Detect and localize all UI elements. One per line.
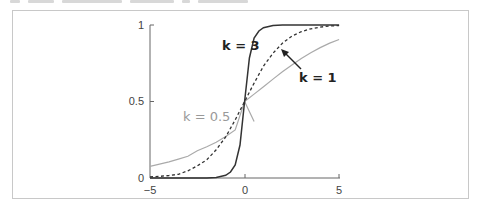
- x-tick-5: 5: [336, 184, 342, 196]
- x-tick-minus-5: −5: [144, 184, 157, 196]
- sigmoid-chart: 1 0.5 0 −5 0 5 k = 3 k = 1 k = 0.5: [0, 0, 480, 220]
- y-tick-0: 0: [138, 172, 144, 184]
- y-tick-1: 1: [138, 19, 144, 31]
- label-k-1: k = 1: [299, 70, 337, 85]
- x-tick-0: 0: [242, 184, 248, 196]
- y-tick-0-5: 0.5: [129, 95, 144, 107]
- label-k-3: k = 3: [222, 38, 260, 53]
- label-k-0-5: k = 0.5: [183, 109, 230, 124]
